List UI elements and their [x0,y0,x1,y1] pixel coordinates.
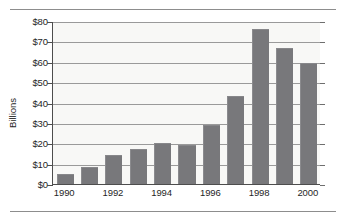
x-axis-tick-label: 1990 [44,188,84,198]
plot-area [52,22,320,185]
x-axis-tick-label: 1992 [93,188,133,198]
y-axis-tick-label: $80 [2,17,48,27]
y-axis-right-tick [320,104,325,105]
top-divider-rule [10,9,336,10]
y-axis-right-tick [320,42,325,43]
bar [154,143,171,184]
bar [252,29,269,184]
y-axis-right-tick [320,165,325,166]
bar-chart-figure: Billions $0$10$20$30$40$50$60$70$80 1990… [0,0,344,218]
y-axis-right-tick [320,83,325,84]
bar-series [53,22,320,184]
bar [300,63,317,184]
bar [276,48,293,184]
y-axis-tick-label: $50 [2,78,48,88]
y-axis-right-tick [320,22,325,23]
bar [130,149,147,184]
bar [105,155,122,184]
bar [81,167,98,184]
bar [203,125,220,184]
x-axis-tick-label: 1996 [190,188,230,198]
y-axis-right-tick [320,144,325,145]
y-axis-tick-label: $70 [2,37,48,47]
y-axis-tick-label: $10 [2,160,48,170]
x-axis-tick-label: 1994 [142,188,182,198]
y-axis-tick-label: $60 [2,58,48,68]
y-axis-right-tick [320,124,325,125]
y-axis-tick-label: $40 [2,99,48,109]
y-axis-right-tick [320,185,325,186]
y-axis-tick-label: $0 [2,180,48,190]
bottom-divider-rule [10,211,336,212]
bar [57,174,74,184]
x-axis-tick-label: 1998 [239,188,279,198]
y-axis-tick-label: $30 [2,119,48,129]
y-axis-right-tick [320,63,325,64]
x-axis-tick-label: 2000 [288,188,328,198]
bar [178,145,195,184]
y-axis-tick-label: $20 [2,139,48,149]
y-axis-tick-mark [47,185,53,186]
bar [227,96,244,184]
